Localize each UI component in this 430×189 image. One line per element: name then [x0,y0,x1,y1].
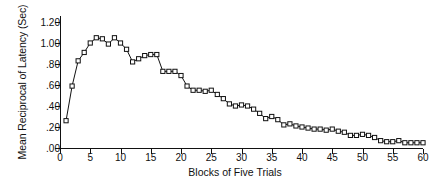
data-point-marker [252,107,256,111]
data-point-marker [379,139,383,143]
data-point-marker [88,41,92,45]
data-point-marker [76,59,80,63]
x-tick-label: 5 [87,152,93,163]
data-point-marker [409,141,413,145]
x-tick-label: 50 [357,152,368,163]
data-point-marker [221,97,225,101]
data-point-marker [137,57,141,61]
data-point-marker [294,124,298,128]
data-point-marker [306,126,310,130]
y-tick-mark [55,43,60,44]
y-tick-mark [55,127,60,128]
y-tick-mark [55,85,60,86]
y-tick-mark [55,106,60,107]
x-tick-label: 10 [115,152,126,163]
data-point-marker [245,104,249,108]
data-point-marker [203,89,207,93]
data-point-marker [276,118,280,122]
y-axis-tick-labels: .00.20.40.60.801.001.20 [30,0,60,189]
data-point-marker [185,84,189,88]
data-point-marker [324,128,328,132]
data-line [66,38,423,143]
x-tick-label: 60 [417,152,428,163]
data-point-marker [403,141,407,145]
data-point-marker [106,42,110,46]
data-point-marker [270,114,274,118]
data-point-marker [215,92,219,96]
data-point-marker [342,130,346,134]
data-point-marker [264,117,268,121]
x-tick-label: 25 [206,152,217,163]
data-point-marker [173,69,177,73]
data-point-marker [197,88,201,92]
data-point-marker [366,133,370,137]
data-point-marker [100,37,104,41]
y-tick-mark [55,22,60,23]
data-point-marker [391,140,395,144]
data-point-marker [131,60,135,64]
x-tick-label: 15 [145,152,156,163]
data-point-marker [336,129,340,133]
data-point-marker [94,36,98,40]
data-point-marker [209,88,213,92]
data-point-marker [318,127,322,131]
data-point-marker [348,133,352,137]
x-axis-tick-labels: 051015202530354045505560 [60,152,423,166]
data-point-marker [421,141,425,145]
data-point-marker [415,141,419,145]
data-point-marker [354,133,358,137]
data-point-marker [227,102,231,106]
data-point-marker [64,119,68,123]
x-tick-label: 40 [296,152,307,163]
data-point-marker [385,140,389,144]
data-point-marker [312,127,316,131]
data-point-marker [70,84,74,88]
x-axis-label: Blocks of Five Trials [0,166,430,178]
data-point-marker [360,132,364,136]
data-point-marker [282,123,286,127]
data-point-marker [233,104,237,108]
x-tick-label: 55 [387,152,398,163]
plot-area [60,22,423,148]
data-point-marker [167,69,171,73]
y-axis-label: Mean Reciprocal of Latency (Sec) [16,2,28,162]
data-point-marker [288,122,292,126]
data-point-marker [239,103,243,107]
x-tick-label: 30 [236,152,247,163]
x-tick-label: 45 [327,152,338,163]
x-tick-label: 0 [57,152,63,163]
data-point-marker [143,54,147,58]
data-point-marker [149,52,153,56]
x-tick-label: 20 [175,152,186,163]
data-point-marker [155,52,159,56]
data-point-marker [82,50,86,54]
x-tick-label: 35 [266,152,277,163]
data-point-marker [124,47,128,51]
data-point-marker [300,125,304,129]
chart-figure: Mean Reciprocal of Latency (Sec) .00.20.… [0,0,430,189]
data-series-svg [60,22,423,148]
data-point-marker [161,69,165,73]
data-point-marker [191,88,195,92]
data-point-marker [118,41,122,45]
data-point-marker [373,135,377,139]
y-tick-mark [55,64,60,65]
data-point-marker [179,73,183,77]
data-point-marker [397,139,401,143]
data-point-marker [112,36,116,40]
data-point-marker [258,111,262,115]
data-point-marker [330,127,334,131]
